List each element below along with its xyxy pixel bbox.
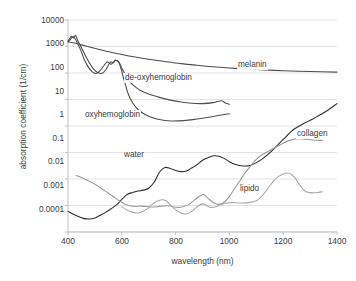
curve-label-melanin: melanin (237, 60, 268, 70)
curve-label-oxyhemoglobin: oxyhemoglobin (84, 110, 141, 120)
curve-de-oxyhemoglobin (68, 35, 229, 104)
curve-label-de-oxyhemoglobin: de-oxyhemoglobin (124, 73, 193, 83)
curve-label-lipido: lipido (239, 184, 260, 194)
data-curves (68, 35, 337, 219)
absorption-spectra-chart: absorption coefficient (1/cm) 10000 1000… (0, 0, 356, 281)
curve-label-water: water (123, 150, 145, 160)
curve-water (68, 104, 337, 219)
plot-area (0, 0, 356, 281)
curve-label-collagen: collagen (296, 129, 329, 139)
